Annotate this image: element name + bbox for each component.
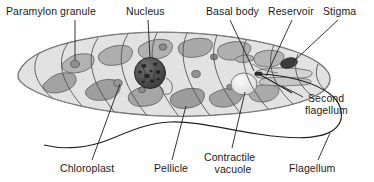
label-basal-body: Basal body <box>206 6 259 18</box>
paramylon-granule <box>192 70 201 77</box>
label-paramylon-granule: Paramylon granule <box>6 6 96 18</box>
euglena-diagram: Paramylon granule Nucleus Basal body Res… <box>0 0 374 182</box>
label-reservoir: Reservoir <box>268 6 314 18</box>
paramylon-granule <box>139 87 146 93</box>
label-nucleus: Nucleus <box>126 6 165 18</box>
leader-flagellum <box>318 133 330 160</box>
label-contractile-vacuole-line1: Contractile <box>204 152 255 164</box>
label-contractile-vacuole-line2: vacuole <box>204 164 262 176</box>
contractile-vacuole <box>231 73 257 95</box>
label-second-flagellum-line2: flagellum <box>305 105 348 117</box>
nucleus-organelle <box>135 58 166 89</box>
paramylon-granule <box>70 60 79 68</box>
label-flagellum: Flagellum <box>289 163 335 175</box>
label-stigma: Stigma <box>323 6 356 18</box>
label-second-flagellum-line1: Second <box>308 93 344 105</box>
leader-stigma <box>293 20 338 62</box>
paramylon-granule <box>114 80 122 87</box>
label-chloroplast: Chloroplast <box>60 163 114 175</box>
paramylon-granule <box>159 44 167 50</box>
label-pellicle: Pellicle <box>154 163 188 175</box>
euglena-illustration <box>0 0 374 182</box>
